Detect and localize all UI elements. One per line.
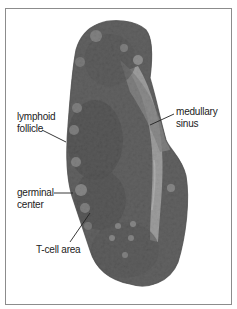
label-germinal-center: germinal center <box>17 187 54 211</box>
label-line: sinus <box>176 118 218 130</box>
label-line: follicle <box>17 123 55 135</box>
label-medullary-sinus: medullary sinus <box>176 106 218 130</box>
lymph-node-micrograph <box>0 0 237 309</box>
label-line: medullary <box>176 106 218 118</box>
label-line: germinal <box>17 187 54 199</box>
label-line: lymphoid <box>17 111 55 123</box>
label-line: T-cell area <box>36 244 81 256</box>
label-lymphoid-follicle: lymphoid follicle <box>17 111 55 135</box>
label-line: center <box>17 199 54 211</box>
label-t-cell-area: T-cell area <box>36 244 81 256</box>
